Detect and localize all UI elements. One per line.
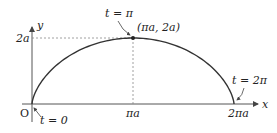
cycloid-diagram: y x O 2a πa 2πa t = 0 t = π (πa, 2a) t =… <box>0 0 277 133</box>
origin-label: O <box>20 107 29 120</box>
tick-pia: πa <box>125 107 140 120</box>
t-end-label: t = 2π <box>232 74 268 87</box>
t-peak-label: t = π <box>105 7 134 20</box>
peak-point <box>131 36 135 40</box>
tick-2a: 2a <box>15 32 30 45</box>
t-start-label: t = 0 <box>40 114 68 127</box>
y-axis-label: y <box>36 19 44 32</box>
t-end-arrow <box>237 88 244 100</box>
t-start-arrow <box>34 108 41 117</box>
tick-2pia: 2πa <box>227 107 249 120</box>
x-axis-label: x <box>262 98 269 111</box>
t-peak-arrow <box>118 21 130 35</box>
peak-point-label: (πa, 2a) <box>137 21 180 34</box>
